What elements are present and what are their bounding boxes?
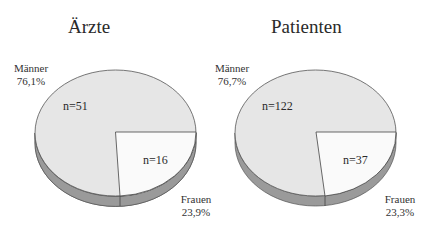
count-frauen-aerzte: n=16 [143, 153, 168, 168]
label-name: Frauen [380, 193, 420, 206]
label-pct: 23,9% [176, 206, 216, 219]
legend-label-maenner-aerzte: Männer 76,1% [10, 62, 52, 88]
label-pct: 76,7% [211, 75, 253, 88]
pie-aerzte [35, 70, 196, 206]
legend-label-frauen-patienten: Frauen 23,3% [380, 193, 420, 219]
label-pct: 76,1% [10, 75, 52, 88]
legend-label-maenner-patienten: Männer 76,7% [211, 62, 253, 88]
label-name: Männer [211, 62, 253, 75]
legend-label-frauen-aerzte: Frauen 23,9% [176, 193, 216, 219]
pie-patienten [235, 70, 396, 206]
chart-title-patienten: Patienten [271, 16, 342, 38]
count-maenner-patienten: n=122 [262, 99, 293, 114]
count-frauen-patienten: n=37 [343, 153, 368, 168]
chart-title-aerzte: Ärzte [68, 16, 110, 38]
label-name: Frauen [176, 193, 216, 206]
label-pct: 23,3% [380, 206, 420, 219]
count-maenner-aerzte: n=51 [63, 99, 88, 114]
label-name: Männer [10, 62, 52, 75]
